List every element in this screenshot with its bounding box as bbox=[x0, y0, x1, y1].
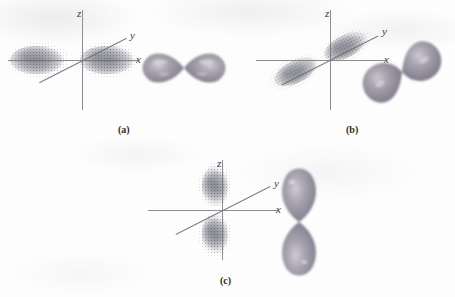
x-axis-label-a: x bbox=[136, 54, 141, 65]
z-axis-label-c: z bbox=[217, 158, 221, 169]
axes-c: z y x bbox=[148, 160, 278, 260]
orbital-lobes-a bbox=[142, 42, 226, 94]
orbital-figure: z y x bbox=[0, 0, 455, 297]
panel-c: z y x bbox=[110, 150, 340, 297]
z-axis-label-b: z bbox=[325, 8, 329, 19]
orbital-lobes-b bbox=[356, 32, 448, 112]
panel-b: z y x bbox=[228, 0, 455, 149]
x-axis-line-c bbox=[148, 210, 278, 211]
panel-a: z y x bbox=[0, 0, 228, 149]
z-axis-label-a: z bbox=[77, 8, 81, 19]
orbital-lobes-c bbox=[272, 166, 326, 278]
y-axis-label-a: y bbox=[130, 30, 135, 41]
axes-a: z y x bbox=[8, 10, 138, 110]
caption-c: (c) bbox=[220, 276, 231, 286]
caption-b: (b) bbox=[346, 125, 358, 135]
x-axis-line-a bbox=[8, 60, 138, 61]
caption-a: (a) bbox=[118, 125, 130, 135]
